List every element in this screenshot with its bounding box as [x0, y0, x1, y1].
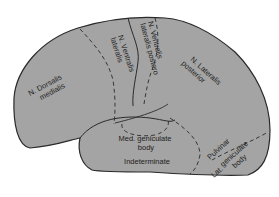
label-indeterminate: Indeterminate [124, 157, 170, 166]
thalamus-nuclei-diagram: N. Dorsalis medialis N. Ventralis latera… [0, 0, 279, 197]
